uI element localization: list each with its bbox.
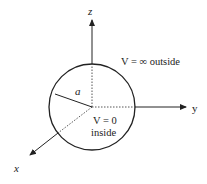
radius-label: a xyxy=(75,85,81,97)
y-axis-label: y xyxy=(192,102,198,114)
x-axis xyxy=(30,133,58,155)
outside-potential-label: V = ∞ outside xyxy=(121,56,180,67)
inside-label: inside xyxy=(91,127,116,138)
spherical-well-diagram: z y x a V = ∞ outside V = 0 inside xyxy=(0,0,207,184)
z-axis-label: z xyxy=(87,5,93,17)
x-axis-inner-dotted xyxy=(58,107,92,133)
x-axis-label: x xyxy=(13,162,19,174)
radius-line xyxy=(55,94,92,107)
inside-potential-label: V = 0 xyxy=(93,115,117,126)
